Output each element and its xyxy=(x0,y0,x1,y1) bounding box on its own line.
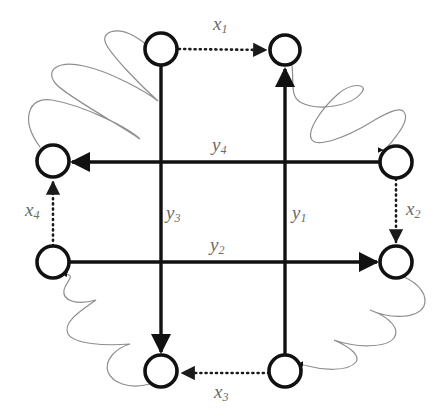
graph-diagram-figure: x1 x2 x3 x4 y1 y2 y3 y4 xyxy=(0,0,447,417)
solid-edge-layer xyxy=(69,65,380,355)
label-y3: y3 xyxy=(164,202,180,225)
squiggle-top-left xyxy=(29,31,158,147)
label-y2: y2 xyxy=(208,234,224,257)
label-x2: x2 xyxy=(405,198,420,221)
node-top-left[interactable] xyxy=(145,33,177,65)
diagram-canvas: x1 x2 x3 x4 y1 y2 y3 y4 xyxy=(0,0,447,417)
label-y4: y4 xyxy=(210,134,226,157)
edge-x1 xyxy=(179,49,266,50)
label-x4: x4 xyxy=(24,199,39,222)
node-right-upper[interactable] xyxy=(380,146,412,178)
squiggle-bottom-right xyxy=(298,277,425,369)
dotted-edge-layer xyxy=(53,49,396,373)
node-bottom-left[interactable] xyxy=(145,355,177,387)
node-top-right[interactable] xyxy=(270,35,300,65)
squiggle-top-right xyxy=(292,66,406,150)
node-left-upper[interactable] xyxy=(37,145,69,177)
squiggle-bottom-left xyxy=(62,273,150,386)
label-x1: x1 xyxy=(212,13,227,36)
label-x3: x3 xyxy=(213,381,228,404)
node-right-lower[interactable] xyxy=(380,246,412,278)
label-y1: y1 xyxy=(290,202,306,225)
node-left-lower[interactable] xyxy=(37,246,69,278)
squiggle-layer xyxy=(29,31,425,386)
node-bottom-right[interactable] xyxy=(269,355,301,387)
